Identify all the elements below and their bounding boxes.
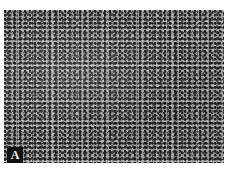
panel-label: A (7, 147, 23, 163)
micrograph-image (4, 10, 224, 163)
